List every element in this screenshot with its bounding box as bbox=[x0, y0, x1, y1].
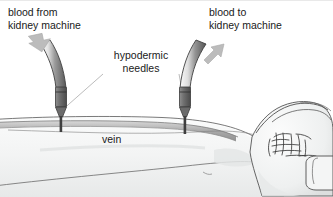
label-blood-to-kidney-machine: blood to kidney machine bbox=[209, 6, 282, 31]
forearm bbox=[0, 116, 284, 197]
outflow-arrow bbox=[204, 44, 224, 64]
outflow-tube bbox=[180, 40, 206, 88]
label-hypodermic-needles: hypodermic needles bbox=[101, 49, 181, 74]
needle-leader-lines bbox=[60, 74, 186, 112]
clenched-fist bbox=[250, 102, 333, 197]
diagram-canvas: blood from kidney machine blood to kidne… bbox=[0, 0, 333, 197]
label-vein: vein bbox=[102, 133, 121, 146]
label-blood-from-kidney-machine: blood from kidney machine bbox=[8, 6, 81, 31]
